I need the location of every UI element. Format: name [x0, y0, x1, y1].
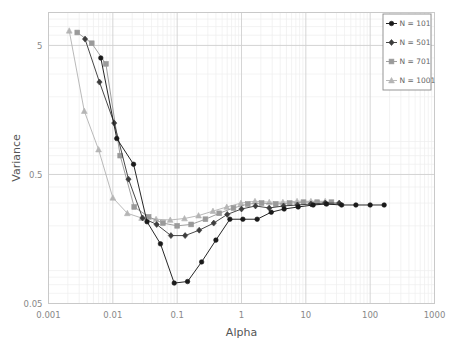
x-tick-label: 0.001: [36, 310, 60, 320]
data-point-marker: [131, 162, 136, 167]
data-point-marker: [145, 219, 150, 224]
y-axis-title: Variance: [10, 134, 23, 182]
x-tick-label: 0.1: [170, 310, 184, 320]
data-point-marker: [189, 222, 194, 227]
legend-item-label: N = 501: [400, 38, 431, 47]
data-point-marker: [245, 202, 250, 207]
x-tick-label: 1000: [424, 310, 446, 320]
data-point-marker: [301, 200, 306, 205]
data-point-marker: [282, 207, 287, 212]
data-point-marker: [158, 242, 163, 247]
data-point-marker: [273, 202, 278, 207]
data-point-marker: [217, 211, 222, 216]
y-tick-label: 0.05: [24, 299, 43, 309]
data-point-marker: [228, 217, 233, 222]
y-tick-label: 0.5: [29, 170, 43, 180]
data-point-marker: [114, 136, 119, 141]
data-point-marker: [172, 281, 177, 286]
x-tick-label: 0.01: [103, 310, 122, 320]
data-point-marker: [296, 205, 301, 210]
data-point-marker: [324, 202, 329, 207]
data-point-marker: [99, 56, 104, 61]
x-tick-label: 100: [362, 310, 378, 320]
data-point-marker: [214, 238, 219, 243]
data-point-marker: [146, 214, 151, 219]
data-point-marker: [259, 201, 264, 206]
data-point-marker: [389, 59, 394, 64]
legend-item-label: N = 1001: [400, 76, 436, 85]
data-point-marker: [203, 217, 208, 222]
legend-item-label: N = 701: [400, 57, 431, 66]
data-point-marker: [382, 203, 387, 208]
y-tick-label: 5: [37, 41, 42, 51]
data-point-marker: [89, 41, 94, 46]
data-point-marker: [160, 221, 165, 226]
data-point-marker: [269, 210, 274, 215]
data-point-marker: [311, 203, 316, 208]
data-point-marker: [231, 206, 236, 211]
data-point-marker: [185, 279, 190, 284]
x-tick-label: 10: [300, 310, 311, 320]
data-point-marker: [389, 21, 394, 26]
data-point-marker: [368, 203, 373, 208]
data-point-marker: [103, 61, 108, 66]
data-point-marker: [132, 205, 137, 210]
x-tick-label: 1: [239, 310, 244, 320]
x-axis-title: Alpha: [226, 326, 257, 339]
chart-legend[interactable]: N = 101N = 501N = 701N = 1001: [383, 14, 435, 90]
legend-item-label: N = 101: [400, 19, 431, 28]
variance-vs-alpha-chart: 0.0010.010.11101001000 50.50.05 Alpha Va…: [0, 0, 468, 350]
data-point-marker: [287, 201, 292, 206]
data-point-marker: [241, 217, 246, 222]
data-point-marker: [75, 30, 80, 35]
data-point-marker: [175, 223, 180, 228]
chart-figure: 0.0010.010.11101001000 50.50.05 Alpha Va…: [0, 0, 468, 350]
data-point-marker: [199, 260, 204, 265]
data-point-marker: [339, 203, 344, 208]
data-point-marker: [255, 217, 260, 222]
data-point-marker: [354, 203, 359, 208]
